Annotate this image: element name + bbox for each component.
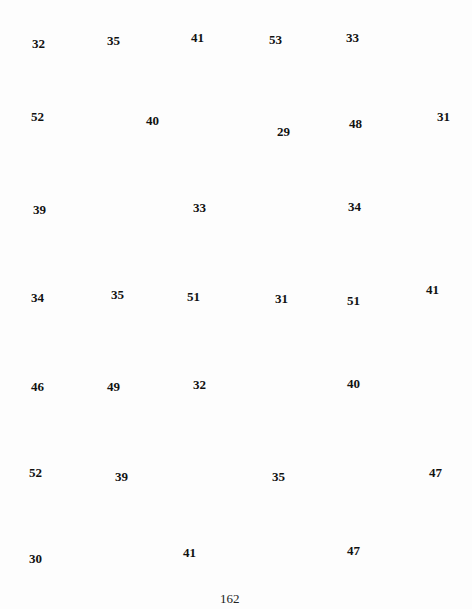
scattered-number: 33 <box>346 31 359 44</box>
scattered-number: 30 <box>29 552 42 565</box>
scattered-number: 40 <box>347 377 360 390</box>
scattered-number: 41 <box>426 283 439 296</box>
scattered-number: 32 <box>32 37 45 50</box>
scattered-number: 53 <box>269 33 282 46</box>
scattered-number: 52 <box>29 466 42 479</box>
scattered-number: 40 <box>146 114 159 127</box>
scattered-number: 51 <box>187 290 200 303</box>
scattered-number: 33 <box>193 201 206 214</box>
scattered-number: 46 <box>31 380 44 393</box>
scattered-number: 32 <box>193 378 206 391</box>
scattered-number: 31 <box>275 292 288 305</box>
scattered-number: 48 <box>349 117 362 130</box>
scattered-number: 51 <box>347 294 360 307</box>
scattered-number: 52 <box>31 110 44 123</box>
scattered-number: 29 <box>277 125 290 138</box>
scattered-number: 47 <box>429 466 442 479</box>
scattered-number: 47 <box>347 544 360 557</box>
scattered-number: 41 <box>183 546 196 559</box>
scattered-number: 39 <box>115 470 128 483</box>
scattered-number: 41 <box>191 31 204 44</box>
scattered-number: 35 <box>107 34 120 47</box>
scattered-number: 35 <box>272 470 285 483</box>
document-page: 3235415333524029483139333434355131514146… <box>0 0 472 609</box>
scattered-number: 34 <box>31 291 44 304</box>
scattered-number: 35 <box>111 288 124 301</box>
scattered-number: 39 <box>33 203 46 216</box>
scattered-number: 49 <box>107 380 120 393</box>
scattered-number: 34 <box>348 200 361 213</box>
scattered-number: 31 <box>437 110 450 123</box>
page-number: 162 <box>220 592 240 605</box>
